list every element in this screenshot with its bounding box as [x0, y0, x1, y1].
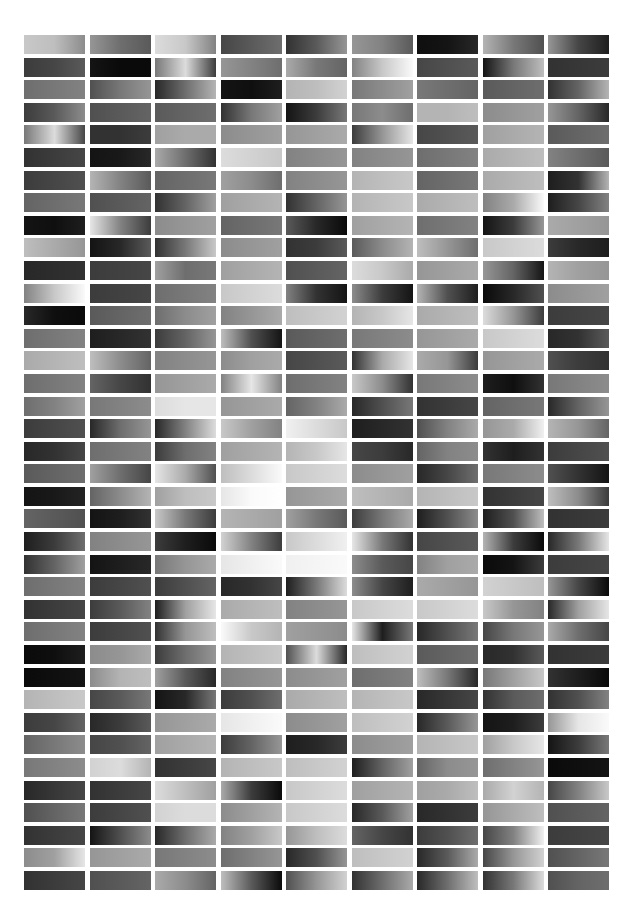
gradient-swatch: [417, 261, 478, 280]
gradient-swatch: [155, 80, 216, 99]
gradient-swatch: [286, 735, 347, 754]
gradient-swatch: [483, 622, 544, 641]
gradient-swatch: [352, 622, 413, 641]
gradient-swatch: [548, 374, 609, 393]
gradient-swatch: [417, 306, 478, 325]
gradient-swatch: [483, 600, 544, 619]
gradient-swatch: [221, 216, 282, 235]
gradient-swatch: [548, 871, 609, 890]
gradient-swatch: [352, 600, 413, 619]
gradient-swatch: [221, 803, 282, 822]
gradient-swatch: [483, 826, 544, 845]
gradient-swatch: [352, 781, 413, 800]
gradient-swatch: [417, 464, 478, 483]
gradient-swatch: [352, 487, 413, 506]
gradient-swatch: [90, 80, 151, 99]
gradient-swatch: [221, 577, 282, 596]
gradient-swatch: [221, 826, 282, 845]
gradient-swatch: [548, 35, 609, 54]
gradient-swatch: [548, 713, 609, 732]
gradient-swatch: [24, 555, 85, 574]
gradient-swatch: [24, 487, 85, 506]
gradient-swatch: [548, 80, 609, 99]
gradient-swatch: [155, 803, 216, 822]
gradient-swatch: [155, 555, 216, 574]
gradient-swatch: [352, 713, 413, 732]
gradient-swatch: [417, 487, 478, 506]
gradient-swatch: [286, 442, 347, 461]
gradient-swatch: [483, 171, 544, 190]
gradient-swatch: [24, 735, 85, 754]
gradient-swatch: [221, 193, 282, 212]
gradient-swatch: [155, 216, 216, 235]
gradient-swatch: [352, 35, 413, 54]
gradient-swatch: [24, 713, 85, 732]
gradient-swatch: [221, 509, 282, 528]
gradient-swatch: [483, 735, 544, 754]
gradient-swatch: [417, 509, 478, 528]
gradient-swatch: [548, 577, 609, 596]
gradient-swatch: [286, 622, 347, 641]
gradient-swatch: [155, 374, 216, 393]
gradient-swatch: [90, 35, 151, 54]
gradient-swatch: [286, 329, 347, 348]
gradient-swatch: [155, 735, 216, 754]
gradient-swatch: [155, 826, 216, 845]
gradient-swatch: [155, 509, 216, 528]
gradient-swatch: [221, 555, 282, 574]
gradient-swatch: [417, 103, 478, 122]
gradient-swatch: [548, 58, 609, 77]
gradient-swatch-grid: [24, 35, 605, 890]
gradient-swatch: [24, 577, 85, 596]
gradient-swatch: [417, 668, 478, 687]
gradient-swatch: [548, 532, 609, 551]
gradient-swatch: [352, 668, 413, 687]
gradient-swatch: [155, 397, 216, 416]
gradient-swatch: [417, 351, 478, 370]
gradient-swatch: [417, 532, 478, 551]
gradient-swatch: [286, 261, 347, 280]
gradient-swatch: [221, 532, 282, 551]
gradient-swatch: [286, 80, 347, 99]
gradient-swatch: [352, 397, 413, 416]
gradient-swatch: [90, 622, 151, 641]
gradient-swatch: [417, 238, 478, 257]
gradient-swatch: [352, 735, 413, 754]
gradient-swatch: [90, 148, 151, 167]
gradient-swatch: [483, 397, 544, 416]
gradient-swatch: [24, 80, 85, 99]
gradient-swatch: [221, 645, 282, 664]
gradient-swatch: [90, 690, 151, 709]
gradient-swatch: [24, 284, 85, 303]
gradient-swatch: [548, 419, 609, 438]
gradient-swatch: [286, 374, 347, 393]
gradient-swatch: [483, 555, 544, 574]
gradient-swatch: [90, 216, 151, 235]
gradient-swatch: [417, 58, 478, 77]
gradient-swatch: [417, 600, 478, 619]
gradient-swatch: [90, 577, 151, 596]
gradient-swatch: [90, 532, 151, 551]
gradient-swatch: [24, 397, 85, 416]
gradient-swatch: [90, 668, 151, 687]
gradient-swatch: [548, 555, 609, 574]
gradient-swatch: [352, 193, 413, 212]
gradient-swatch: [483, 80, 544, 99]
gradient-swatch: [90, 826, 151, 845]
gradient-swatch: [24, 645, 85, 664]
gradient-swatch: [24, 374, 85, 393]
gradient-swatch: [352, 171, 413, 190]
gradient-swatch: [417, 125, 478, 144]
gradient-swatch: [90, 803, 151, 822]
gradient-swatch: [155, 645, 216, 664]
gradient-swatch: [286, 125, 347, 144]
gradient-swatch: [24, 532, 85, 551]
gradient-swatch: [90, 103, 151, 122]
gradient-swatch: [221, 58, 282, 77]
gradient-swatch: [483, 713, 544, 732]
gradient-swatch: [417, 577, 478, 596]
gradient-swatch: [352, 329, 413, 348]
gradient-swatch: [221, 690, 282, 709]
gradient-swatch: [221, 713, 282, 732]
gradient-swatch: [221, 103, 282, 122]
